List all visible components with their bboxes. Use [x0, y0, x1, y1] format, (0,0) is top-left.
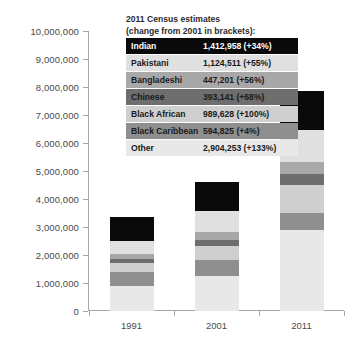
bar-segment-black-caribbean	[110, 272, 154, 286]
y-axis: 10,000,0009,000,0008,000,0007,000,0006,0…	[0, 0, 84, 346]
y-tick-mark	[83, 59, 88, 60]
x-tick-mark	[174, 311, 175, 316]
y-tick-label: 10,000,000	[30, 26, 79, 37]
bar-segment-indian	[195, 182, 239, 211]
x-tick-label: 2001	[182, 320, 252, 331]
legend-item-label: Bangladeshi	[131, 75, 203, 85]
legend-item-label: Chinese	[131, 92, 203, 102]
y-tick-label: 9,000,000	[36, 54, 79, 65]
y-tick-mark	[83, 87, 88, 88]
chart-legend: 2011 Census estimates (change from 2001 …	[126, 14, 298, 157]
bar-segment-pakistani	[110, 241, 154, 254]
y-tick-label: 2,000,000	[36, 250, 79, 261]
y-tick-mark	[83, 227, 88, 228]
y-tick-mark	[83, 31, 88, 32]
legend-title-line-2: (change from 2001 in brackets):	[126, 26, 298, 38]
bar-segment-indian	[110, 217, 154, 241]
bar-segment-black-caribbean	[195, 260, 239, 276]
legend-item-pakistani: Pakistani1,124,511 (+55%)	[126, 55, 298, 71]
y-tick-label: 5,000,000	[36, 166, 79, 177]
x-tick-label: 2011	[267, 320, 337, 331]
bar-group-2001	[195, 182, 239, 311]
x-tick-mark	[344, 311, 345, 316]
legend-item-label: Other	[131, 143, 203, 153]
y-tick-label: 7,000,000	[36, 110, 79, 121]
y-tick-mark	[83, 143, 88, 144]
bar-segment-other	[195, 276, 239, 311]
y-tick-mark	[83, 199, 88, 200]
y-tick-label: 8,000,000	[36, 82, 79, 93]
y-tick-mark	[83, 115, 88, 116]
legend-item-black-african: Black African989,628 (+100%)	[126, 106, 298, 122]
x-tick-label: 1991	[97, 320, 167, 331]
y-tick-mark	[83, 283, 88, 284]
legend-item-label: Pakistani	[131, 58, 203, 68]
x-tick-mark	[259, 311, 260, 316]
legend-item-value: 594,825 (+4%)	[203, 126, 260, 136]
legend-item-value: 989,628 (+100%)	[203, 109, 269, 119]
bar-segment-chinese	[110, 259, 154, 263]
legend-item-label: Black African	[131, 109, 203, 119]
bar-segment-other	[280, 230, 324, 311]
y-tick-mark	[83, 171, 88, 172]
bar-segment-bangladeshi	[110, 254, 154, 259]
legend-item-value: 1,412,958 (+34%)	[203, 41, 272, 51]
bar-segment-other	[110, 286, 154, 311]
legend-item-other: Other2,904,253 (+133%)	[126, 140, 298, 156]
legend-item-value: 2,904,253 (+133%)	[203, 143, 276, 153]
y-tick-label: 4,000,000	[36, 194, 79, 205]
y-tick-mark	[83, 255, 88, 256]
legend-title-line-1: 2011 Census estimates	[126, 14, 298, 26]
legend-item-label: Indian	[131, 41, 203, 51]
legend-item-chinese: Chinese393,141 (+68%)	[126, 89, 298, 105]
legend-rows: Indian1,412,958 (+34%)Pakistani1,124,511…	[126, 38, 298, 156]
bar-segment-black-african	[110, 263, 154, 271]
x-tick-mark	[89, 311, 90, 316]
bar-segment-black-caribbean	[280, 213, 324, 230]
legend-item-value: 1,124,511 (+55%)	[203, 58, 271, 68]
legend-item-bangladeshi: Bangladeshi447,201 (+56%)	[126, 72, 298, 88]
bar-segment-chinese	[280, 174, 324, 185]
legend-item-black-caribbean: Black Caribbean594,825 (+4%)	[126, 123, 298, 139]
bar-group-1991	[110, 217, 154, 311]
y-tick-label: 0	[74, 306, 79, 317]
legend-item-indian: Indian1,412,958 (+34%)	[126, 38, 298, 54]
legend-item-label: Black Caribbean	[131, 126, 203, 136]
bar-segment-pakistani	[195, 211, 239, 231]
y-tick-mark	[83, 311, 88, 312]
bar-segment-bangladeshi	[195, 232, 239, 240]
legend-item-value: 447,201 (+56%)	[203, 75, 264, 85]
legend-item-value: 393,141 (+68%)	[203, 92, 264, 102]
bar-segment-chinese	[195, 240, 239, 247]
bar-segment-black-african	[195, 246, 239, 260]
stacked-bar-chart: 10,000,0009,000,0008,000,0007,000,0006,0…	[0, 0, 351, 346]
bar-segment-bangladeshi	[280, 162, 324, 175]
y-tick-label: 3,000,000	[36, 222, 79, 233]
y-tick-label: 1,000,000	[36, 278, 79, 289]
y-tick-label: 6,000,000	[36, 138, 79, 149]
bar-segment-black-african	[280, 185, 324, 213]
